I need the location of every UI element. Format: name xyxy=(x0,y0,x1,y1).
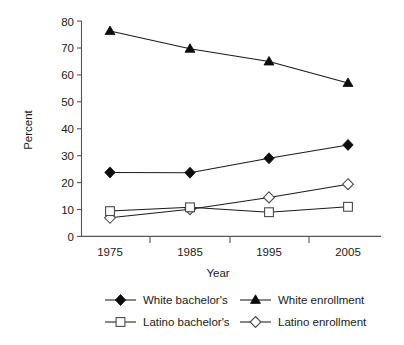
x-tick-label: 2005 xyxy=(335,246,361,258)
diamond-filled-icon xyxy=(115,295,125,306)
data-point-marker xyxy=(264,192,275,203)
square-open-icon xyxy=(116,318,125,327)
line-chart: Percent 80 70 60 50 40 30 20 10 0 xyxy=(0,0,404,345)
triangle-filled-icon xyxy=(251,295,261,304)
series-line-latino-bachelors xyxy=(110,207,348,212)
x-tick-label: 1975 xyxy=(97,246,123,258)
y-tick-label: 70 xyxy=(61,42,74,54)
series-latino-enrollment xyxy=(105,179,354,224)
y-tick-label: 60 xyxy=(61,69,74,81)
x-tick-label: 1995 xyxy=(256,246,282,258)
legend-item-latino-enrollment[interactable]: Latino enrollment xyxy=(240,316,367,328)
data-point-marker xyxy=(105,26,115,35)
y-tick-label: 30 xyxy=(61,150,74,162)
data-point-marker xyxy=(186,203,195,212)
y-tick-label: 40 xyxy=(61,123,74,135)
series-line-latino-enrollment xyxy=(110,184,348,218)
y-tick-label: 80 xyxy=(61,16,74,28)
x-axis: 1975 1985 1995 2005 Year xyxy=(82,236,382,279)
x-axis-title: Year xyxy=(206,267,229,279)
data-point-marker xyxy=(344,202,353,211)
data-point-marker xyxy=(343,139,353,150)
series-white-bachelors xyxy=(105,139,353,178)
y-axis: 80 70 60 50 40 30 20 10 0 xyxy=(61,16,82,243)
y-tick-label: 20 xyxy=(61,177,74,189)
data-point-marker xyxy=(343,179,354,190)
legend-item-latino-bachelors[interactable]: Latino bachelor's xyxy=(105,316,230,328)
series-line-white-enrollment xyxy=(110,31,348,83)
series-line-white-bachelors xyxy=(110,145,348,173)
chart-legend: White bachelor's White enrollment Latino… xyxy=(105,294,367,328)
legend-label: Latino bachelor's xyxy=(143,316,230,328)
legend-label: White bachelor's xyxy=(143,294,228,306)
legend-item-white-bachelors[interactable]: White bachelor's xyxy=(105,294,228,306)
legend-label: White enrollment xyxy=(278,294,365,306)
diamond-open-icon xyxy=(250,317,261,328)
chart-container: Percent 80 70 60 50 40 30 20 10 0 xyxy=(0,0,404,345)
y-axis-title: Percent xyxy=(22,109,34,149)
data-point-marker xyxy=(264,153,274,164)
legend-item-white-enrollment[interactable]: White enrollment xyxy=(240,294,365,306)
y-tick-label: 0 xyxy=(68,231,74,243)
legend-label: Latino enrollment xyxy=(278,316,367,328)
data-point-marker xyxy=(106,207,115,216)
data-point-marker xyxy=(185,167,195,178)
data-point-marker xyxy=(105,167,115,178)
x-tick-label: 1985 xyxy=(177,246,203,258)
y-tick-label: 10 xyxy=(61,204,74,216)
data-point-marker xyxy=(265,208,274,217)
y-tick-label: 50 xyxy=(61,96,74,108)
series-white-enrollment xyxy=(105,26,353,87)
